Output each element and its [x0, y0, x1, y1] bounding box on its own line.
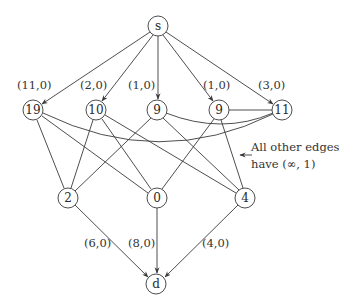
- edge-label-s-11: (3,0): [258, 78, 285, 92]
- edge-label-4-d: (4,0): [202, 236, 229, 250]
- source-edges: [42, 32, 273, 104]
- node-label-10: 10: [88, 103, 103, 117]
- node-10: 10: [86, 100, 106, 120]
- edge-19-0: [42, 116, 148, 193]
- edge-label-s-9a: (1,0): [128, 78, 155, 92]
- node-s: s: [148, 16, 168, 36]
- edge-label-s-9b: (1,0): [203, 78, 230, 92]
- node-11: 11: [272, 100, 292, 120]
- edge-label-s-10: (2,0): [80, 78, 107, 92]
- edge-9a-2: [75, 118, 151, 191]
- edge-default-note: All other edges have (∞, 1): [250, 140, 340, 171]
- edge-10-4: [105, 115, 236, 193]
- note-line-2: have (∞, 1): [251, 157, 315, 171]
- middle-edges: [37, 110, 273, 193]
- node-label-d: d: [152, 277, 160, 291]
- node-label-9a: 9: [153, 103, 161, 117]
- node-label-2: 2: [64, 191, 72, 205]
- node-label-19: 19: [25, 103, 40, 117]
- edge-19-2: [37, 120, 64, 188]
- node-9a: 9: [147, 100, 167, 120]
- edge-9a-4: [163, 118, 239, 190]
- edge-10-2: [71, 120, 93, 188]
- node-d: d: [146, 274, 166, 294]
- node-label-s: s: [155, 19, 161, 33]
- node-label-0: 0: [153, 191, 161, 205]
- node-label-4: 4: [241, 191, 249, 205]
- node-2: 2: [58, 188, 78, 208]
- node-label-11: 11: [274, 103, 289, 117]
- edge-10-0: [102, 119, 151, 189]
- node-4: 4: [235, 188, 255, 208]
- node-0: 0: [147, 188, 167, 208]
- edge-label-2-d: (6,0): [84, 236, 111, 250]
- flow-network-diagram: s 19 10 9 9 11 2 0 4 d (11,0) (2,0) (1,0…: [0, 0, 354, 307]
- edge-s-19: [42, 32, 150, 104]
- node-19: 19: [23, 100, 43, 120]
- edge-s-11: [166, 32, 273, 104]
- node-label-9b: 9: [215, 103, 223, 117]
- edge-label-s-19: (11,0): [17, 78, 52, 92]
- edge-label-0-d: (8,0): [128, 236, 155, 250]
- note-line-1: All other edges: [250, 140, 340, 154]
- node-9b: 9: [209, 100, 229, 120]
